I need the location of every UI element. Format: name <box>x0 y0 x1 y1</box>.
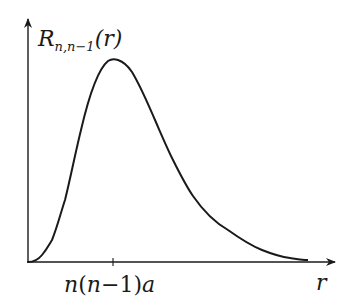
x-axis-label: r <box>316 270 328 295</box>
y-axis-label: Rn,n−1(r) <box>37 26 122 54</box>
y-label-arg: (r) <box>95 26 123 51</box>
radial-wavefunction-plot: Rn,n−1(r) n(n−1)a r <box>0 0 346 307</box>
wavefunction-curve <box>28 59 308 262</box>
y-label-main: R <box>37 26 55 51</box>
x-tick-label: n(n−1)a <box>64 272 155 297</box>
y-label-sub: n,n−1 <box>55 39 95 54</box>
